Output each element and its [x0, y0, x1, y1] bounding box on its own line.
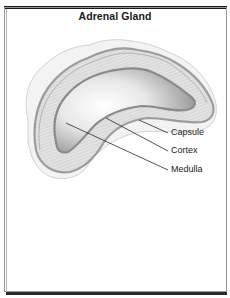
label-cortex: Cortex [171, 145, 198, 155]
label-capsule: Capsule [171, 127, 204, 137]
label-medulla: Medulla [171, 164, 203, 174]
